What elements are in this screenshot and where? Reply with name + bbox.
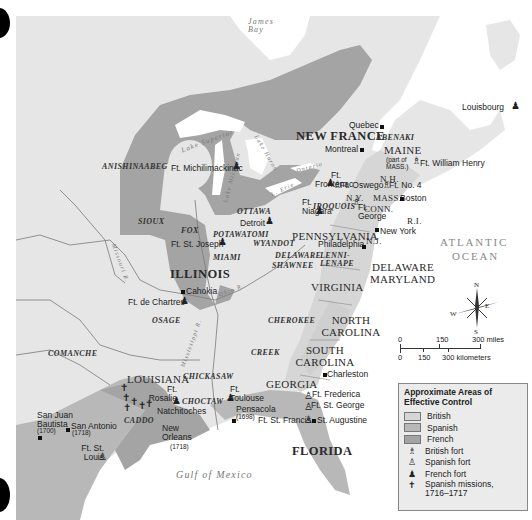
mission-cross-icon: ✝ xyxy=(130,397,138,408)
legend-label: Spanish xyxy=(427,423,458,433)
place-ft-st-francis: Ft. St. Francis xyxy=(258,416,311,425)
place-san-antonio-year: (1718) xyxy=(72,430,91,437)
place-new-orleans-year: (1718) xyxy=(170,444,189,451)
french-fort-icon: ♟ xyxy=(172,396,181,407)
city-dot-icon xyxy=(323,373,327,377)
compass-w: W xyxy=(450,311,457,318)
label-illinois: ILLINOIS xyxy=(170,268,230,281)
label-delaware: DELAWARE xyxy=(372,262,434,274)
mission-cross-icon: ✝ xyxy=(123,403,131,414)
place-ft-st-joseph: Ft. St. Joseph xyxy=(171,240,223,249)
french-fort-icon: ♟ xyxy=(218,237,227,248)
tribe-shawnee: SHAWNEE xyxy=(272,262,314,270)
british-fort-icon: ♗ xyxy=(404,446,419,456)
legend-title: Approximate Areas of Effective Control xyxy=(399,384,527,411)
scale-km-0: 0 xyxy=(398,354,402,362)
french-swatch-icon xyxy=(404,435,421,444)
place-st-augustine: St. Augustine xyxy=(317,416,367,425)
french-fort-icon: ♟ xyxy=(265,216,274,227)
spanish-fort-icon: ♙ xyxy=(304,415,313,426)
label-gulf-of-mexico: Gulf of Mexico xyxy=(176,470,253,481)
label-north-carolina: NORTH CAROLINA xyxy=(316,315,386,338)
british-fort-icon: ♗ xyxy=(382,180,391,191)
scale-km-300: 300 kilometers xyxy=(442,354,491,362)
map-legend: Approximate Areas of Effective Control B… xyxy=(398,383,528,511)
city-dot-icon xyxy=(232,419,236,423)
place-ft-frederica: Ft. Frederica xyxy=(312,390,360,399)
place-louisbourg: Louisbourg xyxy=(462,103,504,112)
spanish-swatch-icon xyxy=(404,423,421,432)
label-james-bay: James Bay xyxy=(248,18,272,35)
mission-cross-icon: ✝ xyxy=(404,480,419,490)
scale-miles-0: 0 xyxy=(398,336,402,344)
place-detroit: Detroit xyxy=(240,219,265,228)
place-natchitoches: Natchitoches xyxy=(157,407,206,416)
british-fort-icon: ♗ xyxy=(412,156,421,167)
french-fort-icon: ♟ xyxy=(226,393,235,404)
compass-e: E xyxy=(485,303,489,310)
tribe-sioux: SIOUX xyxy=(138,218,164,226)
legend-label: French xyxy=(427,434,453,444)
tribe-miami: MIAMI xyxy=(213,254,241,262)
city-dot-icon xyxy=(380,125,384,129)
british-fort-icon: ♗ xyxy=(352,197,361,208)
spanish-fort-icon: ♙ xyxy=(98,452,107,463)
spanish-fort-icon: ♙ xyxy=(404,457,419,467)
label-new-france: NEW FRANCE xyxy=(296,130,385,143)
tribe-wyandot: WYANDOT xyxy=(253,240,295,248)
place-ft-george: Ft. George xyxy=(358,203,382,221)
legend-label: Spanish missions, 1716–1717 xyxy=(425,480,515,500)
place-ft-de-chartres: Ft. de Chartres xyxy=(128,298,185,307)
label-maryland: MARYLAND xyxy=(370,274,435,286)
place-new-orleans: New Orleans xyxy=(162,424,192,442)
tribe-delaware: DELAWARE xyxy=(275,252,321,260)
city-dot-icon xyxy=(66,428,70,432)
tribe-lenni-lenape: LENNI-LENAPE xyxy=(320,252,350,269)
city-dot-icon xyxy=(362,245,366,249)
legend-item-french-fort: ♟ French fort xyxy=(399,468,527,480)
french-fort-icon: ♟ xyxy=(315,206,324,217)
place-new-york: New York xyxy=(380,227,416,236)
french-fort-icon: ♟ xyxy=(404,469,419,479)
city-dot-icon xyxy=(38,436,42,440)
city-dot-icon xyxy=(181,290,185,294)
legend-label: British xyxy=(427,411,451,421)
place-quebec: Quebec xyxy=(349,121,379,130)
place-montreal: Montreal xyxy=(325,145,358,154)
british-fort-icon: ♗ xyxy=(333,180,342,191)
place-ft-oswego: Ft. Oswego xyxy=(340,181,383,190)
tribe-osage: OSAGE xyxy=(152,317,181,325)
city-dot-icon xyxy=(375,228,379,232)
tribe-comanche: COMANCHE xyxy=(48,350,97,358)
british-swatch-icon xyxy=(404,412,421,421)
scale-bar: 0 150 300 miles 0 150 300 kilometers xyxy=(398,336,530,380)
legend-item-spanish-fort: ♙ Spanish fort xyxy=(399,457,527,469)
tribe-abenaki: ABENAKI xyxy=(376,134,414,142)
label-south-carolina: SOUTH CAROLINA xyxy=(290,345,360,368)
place-san-juan-bautista-year: (1700) xyxy=(37,428,56,435)
spanish-fort-icon: ♙ xyxy=(304,402,313,413)
place-philadelphia: Philadelphia xyxy=(318,240,364,249)
legend-label: Spanish fort xyxy=(425,457,470,467)
city-dot-icon xyxy=(360,148,364,152)
tribe-creek: CREEK xyxy=(251,349,280,357)
label-virginia: VIRGINIA xyxy=(311,282,364,294)
label-florida: FLORIDA xyxy=(292,445,352,458)
legend-item-missions: ✝ Spanish missions, 1716–1717 xyxy=(399,480,527,502)
tribe-cherokee: CHEROKEE xyxy=(268,317,315,325)
legend-item-spanish: Spanish xyxy=(399,422,527,434)
label-ocean: OCEAN xyxy=(452,251,499,263)
legend-label: British fort xyxy=(425,446,463,456)
place-pensacola-year: (1698) xyxy=(236,414,255,421)
tribe-fox: FOX xyxy=(181,227,199,235)
place-charleston: Charleston xyxy=(327,370,368,379)
french-fort-icon: ♟ xyxy=(180,296,189,307)
label-georgia: GEORGIA xyxy=(266,379,318,391)
scale-miles-150: 150 xyxy=(436,336,449,344)
mission-cross-icon: ✝ xyxy=(145,399,153,410)
legend-item-british-fort: ♗ British fort xyxy=(399,445,527,457)
french-fort-icon: ♟ xyxy=(511,101,520,112)
french-fort-icon: ♟ xyxy=(232,161,241,172)
scale-km-150: 150 xyxy=(418,354,431,362)
legend-label: French fort xyxy=(425,469,466,479)
